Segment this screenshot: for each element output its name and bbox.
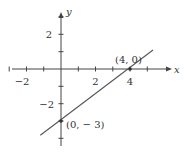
y-axis-label: y <box>65 6 72 17</box>
x-tick-label: 2 <box>92 76 98 87</box>
x-axis-label: x <box>174 64 180 75</box>
point-0-neg3 <box>59 119 63 123</box>
point-label: (4, 0) <box>115 54 142 65</box>
point-label: (0, − 3) <box>66 119 105 130</box>
y-tick-label: 2 <box>46 29 52 40</box>
x-tick-label: 4 <box>127 76 133 87</box>
point-4-0 <box>128 67 132 71</box>
chart: −2 2 4 2 −2 x y (4, 0) (0, − 3) <box>0 0 191 153</box>
x-tick-label: −2 <box>15 76 30 87</box>
y-tick-label: −2 <box>39 99 54 110</box>
x-axis-arrow-icon <box>166 67 172 72</box>
